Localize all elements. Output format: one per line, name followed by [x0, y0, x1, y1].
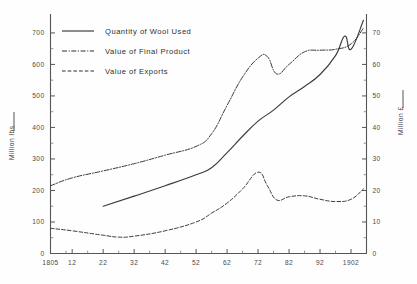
legend-label-2: Value of Exports — [105, 67, 168, 76]
x-tick-label: 62 — [223, 259, 231, 266]
x-tick-label: 32 — [130, 259, 138, 266]
series-line-2 — [51, 172, 364, 237]
legend: Quantity of Wool UsedValue of Final Prod… — [62, 27, 191, 76]
series-group — [51, 20, 364, 237]
right-axis-ticks: 010203040506070 — [362, 29, 381, 257]
right-axis-title: Million £ — [397, 106, 404, 135]
left-tick-label: 500 — [32, 92, 44, 99]
x-tick-label: 1902 — [343, 259, 359, 266]
chart-container: 0100200300400500600700 010203040506070 1… — [0, 0, 417, 284]
x-tick-label: 42 — [161, 259, 169, 266]
line-chart: 0100200300400500600700 010203040506070 1… — [0, 0, 417, 284]
right-tick-label: 30 — [373, 155, 381, 162]
x-tick-label: 12 — [68, 259, 76, 266]
series-line-1 — [51, 28, 364, 186]
left-tick-label: 0 — [40, 250, 44, 257]
left-tick-label: 200 — [32, 187, 44, 194]
right-tick-label: 10 — [373, 218, 381, 225]
left-tick-label: 300 — [32, 155, 44, 162]
x-tick-label: 72 — [254, 259, 262, 266]
right-tick-label: 50 — [373, 92, 381, 99]
x-tick-label: 22 — [99, 259, 107, 266]
right-tick-label: 70 — [373, 29, 381, 36]
right-tick-label: 20 — [373, 187, 381, 194]
x-tick-label: 92 — [316, 259, 324, 266]
legend-label-0: Quantity of Wool Used — [105, 27, 191, 36]
right-tick-label: 60 — [373, 61, 381, 68]
x-tick-label: 1805 — [42, 259, 58, 266]
x-tick-label: 82 — [285, 259, 293, 266]
right-tick-label: 0 — [373, 250, 377, 257]
left-tick-label: 600 — [32, 61, 44, 68]
x-axis-ticks: 18051222324252627282921902 — [42, 249, 359, 266]
legend-label-1: Value of Final Product — [105, 47, 191, 56]
x-tick-label: 52 — [192, 259, 200, 266]
right-tick-label: 40 — [373, 124, 381, 131]
left-tick-label: 700 — [32, 29, 44, 36]
left-tick-label: 100 — [32, 218, 44, 225]
left-axis-ticks: 0100200300400500600700 — [32, 29, 55, 257]
left-tick-label: 400 — [32, 124, 44, 131]
